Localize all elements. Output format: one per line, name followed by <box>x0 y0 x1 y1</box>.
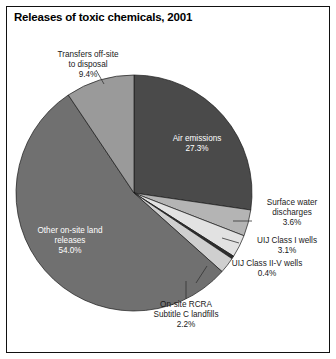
label-other-onsite-land-releases: Other on-site land releases 54.0% <box>18 226 122 257</box>
label-transfers-off-site-to-disposal: Transfers off-site to disposal 9.4% <box>42 50 134 81</box>
label-onsite-rcra-subtitle-c-landfills: On-site RCRA Subtitle C landfills 2.2% <box>134 300 238 331</box>
label-surface-water-discharges: Surface water discharges 3.6% <box>255 198 329 229</box>
figure-container: Releases of toxic chemicals, 2001 Transf… <box>0 0 336 359</box>
label-uij-class-ii-v-wells: UIJ Class II-V wells 0.4% <box>212 259 322 279</box>
label-uij-class-i-wells: UIJ Class I wells 3.1% <box>244 236 330 256</box>
label-air-emissions: Air emissions 27.3% <box>155 134 239 154</box>
